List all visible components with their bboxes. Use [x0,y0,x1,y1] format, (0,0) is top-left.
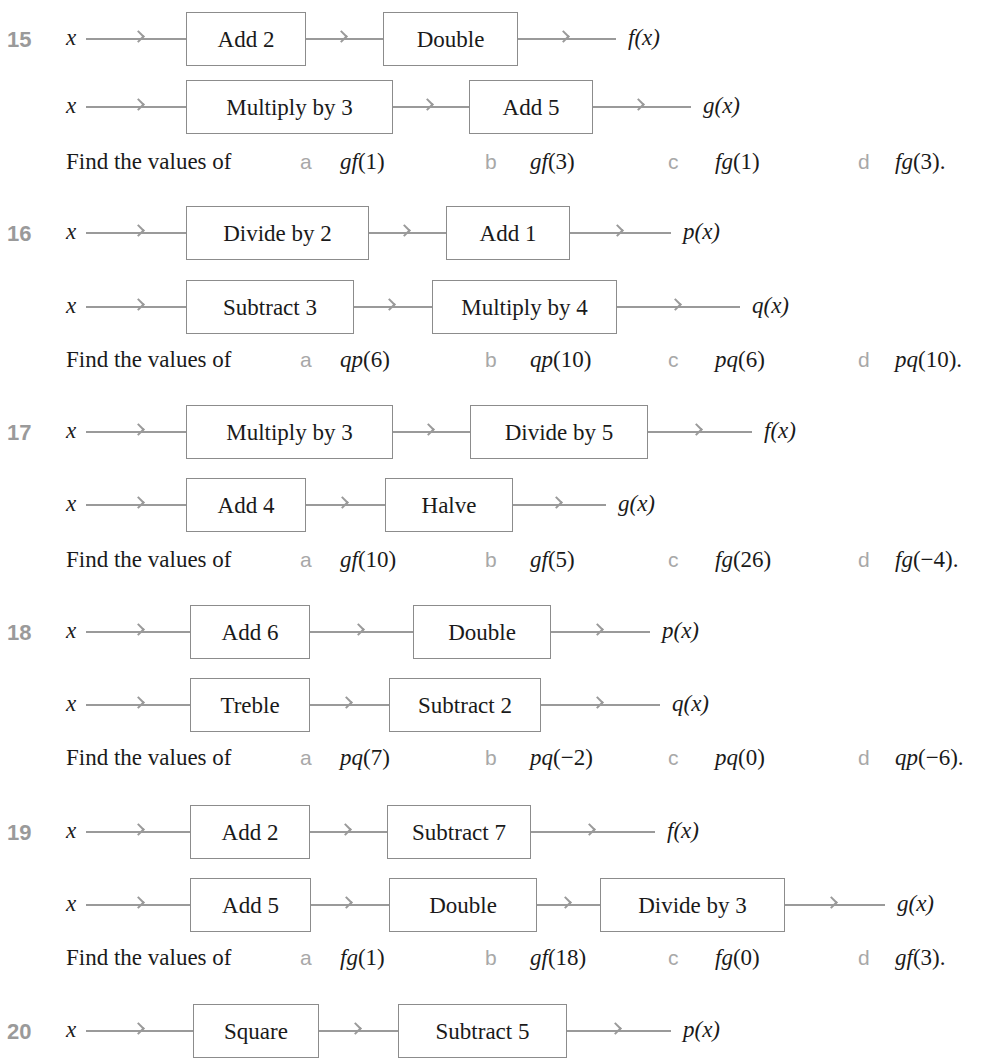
composite-function: qp [895,745,918,770]
composite-function: qp [530,347,553,372]
part-letter: a [300,349,312,370]
argument: (−4). [913,547,959,572]
find-values-label: Find the values of [66,348,231,371]
argument: (0) [738,745,765,770]
arrow-connector [86,1030,193,1032]
part-expression: fg(26) [715,548,771,571]
part-letter: d [858,549,870,570]
composite-function: fg [715,547,733,572]
part-expression: qp(10) [530,348,591,371]
output-label: p(x) [662,619,699,642]
arrow-connector [541,704,660,706]
arrow-head-icon [825,896,838,909]
arrow-head-icon [550,496,563,509]
function-box: Add 4 [186,478,306,532]
composite-function: gf [340,547,358,572]
output-label: f(x) [628,26,660,49]
output-label: f(x) [764,419,796,442]
function-box: Halve [385,478,513,532]
arrow-head-icon [669,298,682,311]
part-letter: d [858,349,870,370]
arrow-connector [86,831,190,833]
arrow-head-icon [422,423,435,436]
composite-function: gf [530,149,548,174]
arrow-connector [310,704,389,706]
part-letter: c [668,151,679,172]
part-expression: gf(3). [895,946,945,969]
argument: (26) [733,547,771,572]
composite-function: fg [895,547,913,572]
question-number: 19 [7,822,31,844]
arrow-connector [311,904,389,906]
arrow-connector [86,904,190,906]
argument: (7) [363,745,390,770]
arrow-connector [354,306,432,308]
arrow-head-icon [632,98,645,111]
output-label: g(x) [618,492,655,515]
function-box: Divide by 5 [470,405,648,459]
output-label: g(x) [703,94,740,117]
arrow-connector [518,38,616,40]
output-label: q(x) [672,692,709,715]
input-x: x [66,220,76,243]
function-box: Square [193,1004,319,1058]
part-letter: b [485,151,497,172]
arrow-head-icon [609,1022,622,1035]
arrow-connector [306,38,383,40]
input-x: x [66,419,76,442]
argument: (0) [733,945,760,970]
composite-function: fg [715,945,733,970]
arrow-head-icon [591,696,604,709]
composite-function: pq [895,347,918,372]
arrow-head-icon [559,896,572,909]
argument: (3) [548,149,575,174]
function-box: Subtract 7 [387,805,531,859]
function-box: Double [383,12,518,66]
arrow-head-icon [690,423,703,436]
arrow-head-icon [611,224,624,237]
arrow-head-icon [340,896,353,909]
function-box: Multiply by 3 [186,405,393,459]
composite-function: fg [715,149,733,174]
composite-function: pq [715,745,738,770]
arrow-head-icon [583,823,596,836]
arrow-connector [393,106,469,108]
function-box: Double [413,605,551,659]
function-box: Add 2 [190,805,310,859]
argument: (3). [913,945,946,970]
function-box: Multiply by 3 [186,80,393,134]
input-x: x [66,492,76,515]
argument: (18) [548,945,586,970]
arrow-connector [310,831,387,833]
part-letter: a [300,747,312,768]
part-letter: d [858,947,870,968]
function-box: Subtract 5 [398,1004,567,1058]
composite-function: gf [530,945,548,970]
input-x: x [66,1018,76,1041]
argument: (6) [363,347,390,372]
question-number: 16 [7,223,31,245]
output-label: g(x) [897,892,934,915]
arrow-connector [319,1030,398,1032]
part-expression: gf(18) [530,946,586,969]
composite-function: pq [340,745,363,770]
question-number: 20 [7,1021,31,1043]
composite-function: fg [340,945,358,970]
part-expression: fg(1) [340,946,385,969]
part-expression: gf(1) [340,150,385,173]
arrow-head-icon [339,823,352,836]
composite-function: gf [530,547,548,572]
question-number: 18 [7,622,31,644]
function-box: Multiply by 4 [432,280,617,334]
arrow-connector [537,904,600,906]
argument: (−2) [553,745,593,770]
part-letter: b [485,349,497,370]
part-letter: c [668,349,679,370]
function-box: Add 1 [446,206,570,260]
input-x: x [66,26,76,49]
function-box: Add 5 [190,878,311,932]
arrow-head-icon [335,30,348,43]
arrow-connector [785,904,885,906]
part-expression: fg(−4). [895,548,958,571]
input-x: x [66,619,76,642]
